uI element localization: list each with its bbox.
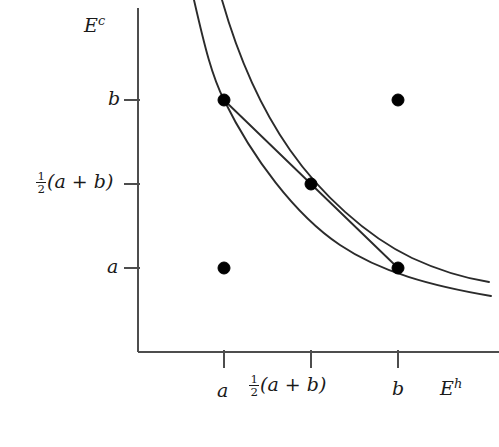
fraction-one-half-x: 1 2 [249,373,259,399]
point-b-b [392,94,404,106]
point-a-b [218,94,230,106]
fraction-numerator: 1 [36,170,46,183]
fraction-denominator: 2 [36,183,46,195]
y-axis-title: Ec [84,16,105,35]
point-mid-mid [305,178,317,190]
y-tick-label-a: a [107,257,118,276]
fraction-one-half: 1 2 [36,170,46,196]
x-tick-label-a: a [217,381,228,400]
y-tick-label-mid: 1 2 (a + b) [36,170,113,196]
figure-container: Ec b 1 2 (a + b) a a 1 2 (a + b) b Eh [0,0,499,447]
y-axis-title-superscript: c [98,13,105,28]
curves-group [194,0,491,296]
y-tick-label-mid-expr: (a + b) [47,170,113,192]
point-b-a [392,262,404,274]
fraction-denominator-x: 2 [249,386,259,398]
curve-inner-hyperbola [222,0,489,282]
axes-group [138,8,499,352]
x-tick-label-mid-expr: (a + b) [260,373,326,395]
x-axis-title-superscript: h [454,376,462,391]
y-axis-title-base: E [84,14,98,36]
point-a-a [218,262,230,274]
x-tick-label-mid: 1 2 (a + b) [249,373,326,399]
fraction-numerator-x: 1 [249,373,259,386]
x-tick-label-b: b [392,379,404,398]
curve-outer-hyperbola [194,0,491,296]
x-axis-title-base: E [440,377,454,399]
x-axis-title: Eh [440,379,462,398]
y-tick-label-b: b [108,89,120,108]
